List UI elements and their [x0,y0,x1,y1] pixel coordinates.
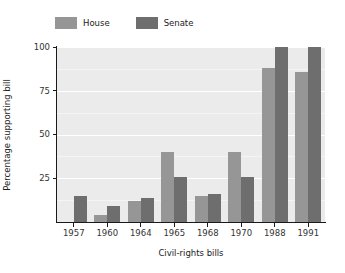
y-tick-100: 100 [34,42,57,52]
bar-group-1965 [158,47,192,222]
x-tick-mark [73,223,74,227]
bar-senate-1957 [74,196,87,222]
legend-swatch-senate [136,17,158,29]
y-tick-25: 25 [39,173,57,183]
x-tick-mark [241,223,242,227]
x-tick-label: 1968 [197,229,219,238]
x-tick-label: 1964 [130,229,152,238]
x-tick-label: 1960 [96,229,118,238]
y-tick-label: 50 [39,130,50,139]
y-tick-label: 100 [34,43,50,52]
legend-label-senate: Senate [164,19,194,28]
bar-house-1960 [94,215,107,222]
legend-label-house: House [83,19,110,28]
bar-house-1991 [295,72,308,223]
x-tick-1965: 1965 [158,223,192,241]
bar-house-1970 [228,152,241,222]
x-tick-1960: 1960 [91,223,125,241]
bar-senate-1965 [174,177,187,223]
bar-house-1988 [262,68,275,222]
bar-house-1965 [161,152,174,222]
x-tick-label: 1965 [163,229,185,238]
legend-swatch-house [55,17,77,29]
bar-group-1968 [191,47,225,222]
y-tick-50: 50 [39,130,57,140]
bar-groups [57,47,325,222]
bar-chart-figure: House Senate Percentage supporting bill … [0,0,345,273]
plot-panel [57,47,325,222]
bar-group-1988 [258,47,292,222]
bar-senate-1970 [241,177,254,223]
x-tick-mark [140,223,141,227]
bar-senate-1988 [275,47,288,222]
x-tick-label: 1957 [63,229,85,238]
x-tick-1957: 1957 [57,223,91,241]
x-tick-1968: 1968 [191,223,225,241]
legend-entry-house: House [55,17,110,29]
x-tick-mark [308,223,309,227]
x-tick-mark [274,223,275,227]
y-tick-label: 75 [39,87,50,96]
bar-group-1964 [124,47,158,222]
bar-group-1957 [57,47,91,222]
y-tick-label: 25 [39,174,50,183]
bar-senate-1991 [308,47,321,222]
bar-group-1960 [91,47,125,222]
legend-entry-senate: Senate [136,17,194,29]
x-tick-label: 1991 [297,229,319,238]
bar-senate-1960 [107,206,120,222]
y-axis-title: Percentage supporting bill [0,47,14,222]
x-axis-ticks: 19571960196419651968197019881991 [57,223,325,241]
bar-senate-1968 [208,194,221,222]
bar-group-1991 [292,47,326,222]
bar-senate-1964 [141,198,154,223]
x-tick-label: 1988 [264,229,286,238]
x-tick-mark [174,223,175,227]
y-axis-ticks: 255075100 [14,47,57,222]
bar-house-1964 [128,201,141,222]
x-tick-1988: 1988 [258,223,292,241]
x-tick-mark [107,223,108,227]
x-tick-1964: 1964 [124,223,158,241]
bar-group-1970 [225,47,259,222]
x-axis-title: Civil-rights bills [57,248,325,258]
bar-house-1968 [195,196,208,222]
y-axis-title-text: Percentage supporting bill [2,79,12,190]
x-tick-1991: 1991 [292,223,326,241]
chart-legend: House Senate [55,14,193,32]
y-tick-75: 75 [39,86,57,96]
x-tick-label: 1970 [230,229,252,238]
y-axis-line [56,46,57,223]
x-tick-1970: 1970 [225,223,259,241]
x-tick-mark [207,223,208,227]
